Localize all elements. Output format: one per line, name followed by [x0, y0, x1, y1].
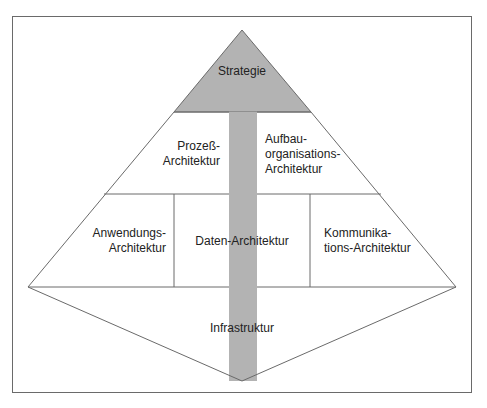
label-prozess-line-1: Prozeß- — [140, 139, 220, 154]
label-strategie: Strategie — [205, 64, 279, 79]
label-kommunikation-line-2: tions-Architektur — [324, 241, 444, 256]
label-anwendungs-architektur: Anwendungs- Architektur — [60, 226, 166, 256]
label-aufbau-line-3: Architektur — [265, 162, 375, 177]
label-prozess-architektur: Prozeß- Architektur — [140, 139, 220, 169]
label-daten-architektur: Daten-Architektur — [176, 234, 308, 249]
label-aufbau-line-1: Aufbau- — [265, 132, 375, 147]
label-kommunikations-architektur: Kommunika- tions-Architektur — [324, 226, 444, 256]
label-kommunikation-line-1: Kommunika- — [324, 226, 444, 241]
label-aufbau-line-2: organisations- — [265, 147, 375, 162]
pyramid-diagram — [0, 0, 487, 408]
label-infrastruktur: Infrastruktur — [192, 321, 292, 336]
label-prozess-line-2: Architektur — [140, 154, 220, 169]
label-anwendung-line-1: Anwendungs- — [60, 226, 166, 241]
label-aufbauorganisations-architektur: Aufbau- organisations- Architektur — [265, 132, 375, 177]
label-anwendung-line-2: Architektur — [60, 241, 166, 256]
